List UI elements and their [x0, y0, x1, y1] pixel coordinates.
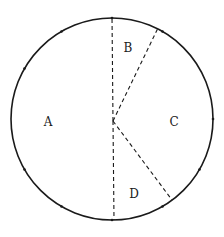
tick-mark	[23, 168, 26, 171]
radius-upper-right	[113, 28, 158, 121]
radius-bottom	[113, 121, 114, 220]
radius-top	[112, 16, 113, 121]
tick-mark	[23, 67, 26, 70]
tick-mark	[60, 205, 63, 208]
region-label-a: A	[43, 115, 53, 129]
radius-lower-right	[113, 121, 172, 200]
tick-mark	[111, 219, 114, 222]
region-label-d: D	[129, 187, 139, 201]
tick-mark	[60, 30, 63, 33]
tick-mark	[161, 30, 164, 33]
circle-diagram: A B C D	[0, 0, 224, 237]
tick-mark	[212, 118, 215, 121]
dashed-radii	[112, 16, 172, 220]
region-labels: A B C D	[43, 41, 179, 201]
tick-mark	[161, 205, 164, 208]
region-label-b: B	[124, 41, 133, 55]
region-label-c: C	[169, 115, 178, 129]
tick-mark	[111, 17, 114, 20]
tick-mark	[198, 168, 201, 171]
